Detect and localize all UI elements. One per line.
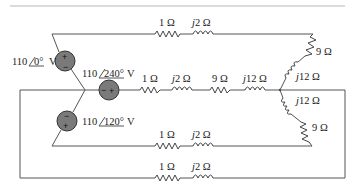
line-a-r-label: 1 Ω [159, 17, 175, 28]
svg-text:110: 110 [82, 116, 97, 127]
resistor-load-a [305, 34, 316, 56]
wire-neutral-right [213, 90, 345, 178]
source-b-minus: − [101, 85, 106, 95]
load-b-x-label: j12 Ω [241, 73, 267, 84]
load-a-r-label: 9 Ω [316, 46, 332, 57]
line-c-r-label: 1 Ω [159, 129, 175, 140]
svg-text:0°: 0° [34, 56, 43, 67]
neutral-r-label: 1 Ω [159, 161, 175, 172]
source-b-label: 110 240° V [82, 68, 135, 79]
source-c-plus: + [63, 121, 68, 131]
source-a-plus: + [62, 52, 67, 62]
svg-text:240°: 240° [104, 68, 124, 79]
load-c-x-label: j12 Ω [294, 95, 320, 106]
svg-text:120°: 120° [104, 116, 124, 127]
svg-text:V: V [127, 68, 135, 79]
wire-load-a-1 [298, 56, 305, 62]
wire-source-c-upper [73, 90, 85, 112]
load-c-r-label: 9 Ω [312, 122, 328, 133]
source-c-minus: − [64, 111, 69, 121]
inductor-neutral [193, 175, 213, 178]
wire-neutral-left [20, 90, 155, 178]
load-a-x-label: j12 Ω [294, 71, 320, 82]
wire-source-c-lower [52, 130, 61, 146]
inductor-line-a [193, 31, 213, 34]
inductor-load-c [281, 98, 291, 114]
resistor-load-b [210, 87, 230, 93]
resistor-line-b [140, 87, 160, 93]
source-a-minus: − [63, 62, 68, 72]
svg-text:V: V [127, 116, 135, 127]
source-a-label: 110 0° V [12, 56, 57, 67]
resistor-load-c [300, 122, 312, 146]
resistor-line-a [155, 31, 180, 37]
source-c: − + [57, 111, 77, 131]
wire-load-a-2 [280, 78, 286, 90]
line-c-x-label: j2 Ω [190, 129, 211, 140]
resistor-neutral [155, 175, 180, 181]
inductor-line-c [193, 143, 213, 146]
wire-source-a-upper [52, 34, 59, 52]
line-b-x-label: j2 Ω [170, 73, 191, 84]
source-a: + − [55, 51, 75, 72]
wire-load-c-1 [280, 90, 283, 98]
neutral-x-label: j2 Ω [190, 161, 211, 172]
svg-text:V: V [49, 56, 57, 67]
inductor-load-b [245, 87, 265, 90]
wire-load-c-2 [291, 114, 301, 122]
source-b: − + [99, 80, 119, 100]
source-c-label: 110 120° V [82, 116, 135, 127]
svg-text:110: 110 [82, 68, 97, 79]
inductor-line-b [172, 87, 192, 90]
source-b-plus: + [109, 86, 114, 96]
resistor-line-c [155, 143, 180, 149]
load-b-r-label: 9 Ω [212, 73, 228, 84]
svg-text:110: 110 [12, 56, 27, 67]
line-b-r-label: 1 Ω [142, 73, 158, 84]
circuit-diagram: + − − + − + 110 0° V 110 240° V 110 120°… [0, 0, 357, 194]
line-a-x-label: j2 Ω [190, 17, 211, 28]
